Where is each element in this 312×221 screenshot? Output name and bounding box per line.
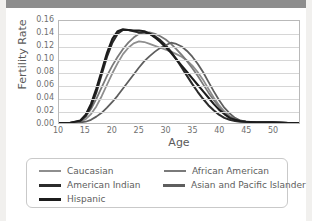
y-tick-label: 0.14 xyxy=(36,29,54,37)
gridline xyxy=(59,47,299,48)
cut-off-header-bar xyxy=(6,0,306,8)
x-tick-label: 10 xyxy=(53,126,63,136)
series-line xyxy=(59,41,299,123)
gridline xyxy=(59,73,299,74)
legend-label: Asian and Pacific Islander xyxy=(191,180,306,190)
legend-label: American Indian xyxy=(67,180,140,190)
legend-item[interactable]: Hispanic xyxy=(27,194,165,204)
x-tick-label: 25 xyxy=(134,126,144,136)
gridline xyxy=(59,99,299,100)
x-axis-title: Age xyxy=(58,136,300,149)
legend-label: Caucasian xyxy=(67,166,113,176)
chart-legend: CaucasianAfrican AmericanAmerican Indian… xyxy=(26,158,288,208)
y-tick-label: 0.10 xyxy=(36,55,54,63)
legend-item[interactable]: Caucasian xyxy=(27,166,164,176)
legend-label: Hispanic xyxy=(67,194,105,204)
y-axis-tick-labels: 0.160.140.120.100.080.060.040.020.00 xyxy=(6,8,56,136)
y-tick-label: 0.02 xyxy=(36,107,54,115)
series-svg xyxy=(59,21,299,123)
fertility-rate-chart: Fertility Rate 0.160.140.120.100.080.060… xyxy=(6,8,306,156)
chart-page: Fertility Rate 0.160.140.120.100.080.060… xyxy=(0,0,312,221)
y-tick-label: 0.16 xyxy=(36,16,54,24)
legend-row: CaucasianAfrican American xyxy=(27,164,287,178)
legend-swatch-icon xyxy=(164,170,186,172)
x-tick-label: 20 xyxy=(107,126,117,136)
y-tick-label: 0.00 xyxy=(36,120,54,128)
x-tick-label: 50 xyxy=(268,126,278,136)
x-tick-label: 15 xyxy=(80,126,90,136)
gridline xyxy=(59,112,299,113)
legend-swatch-icon xyxy=(39,170,61,172)
x-tick-label: 35 xyxy=(187,126,197,136)
plot-area xyxy=(58,20,300,124)
x-tick-label: 45 xyxy=(241,126,251,136)
legend-item[interactable]: African American xyxy=(164,166,287,176)
legend-swatch-icon xyxy=(39,184,61,187)
legend-row: Hispanic xyxy=(27,192,287,206)
y-tick-label: 0.12 xyxy=(36,42,54,50)
gridline xyxy=(59,34,299,35)
x-tick-label: 40 xyxy=(214,126,224,136)
y-tick-label: 0.06 xyxy=(36,81,54,89)
x-tick-label: 30 xyxy=(160,126,170,136)
y-tick-label: 0.08 xyxy=(36,68,54,76)
gridline xyxy=(59,86,299,87)
legend-item[interactable]: American Indian xyxy=(27,180,163,190)
plot-lines xyxy=(59,21,299,123)
gridline xyxy=(59,60,299,61)
legend-swatch-icon xyxy=(39,198,61,201)
legend-swatch-icon xyxy=(163,184,185,187)
legend-item[interactable]: Asian and Pacific Islander xyxy=(163,180,287,190)
chart-card: Fertility Rate 0.160.140.120.100.080.060… xyxy=(6,8,306,221)
legend-label: African American xyxy=(192,166,269,176)
legend-row: American IndianAsian and Pacific Islande… xyxy=(27,178,287,192)
y-tick-label: 0.04 xyxy=(36,94,54,102)
